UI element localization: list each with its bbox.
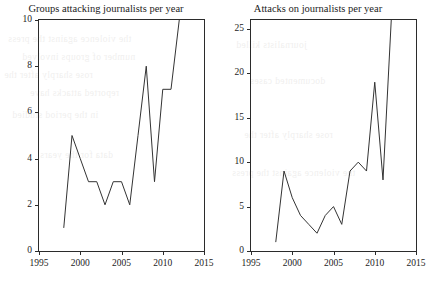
x-axis-tick — [292, 251, 293, 255]
x-axis-tick-label: 2000 — [71, 259, 90, 269]
y-axis-tick-label: 15 — [235, 113, 245, 123]
x-axis-tick-label: 2010 — [365, 259, 384, 269]
plot-area: 024681019952000200520102015 — [38, 19, 205, 252]
y-axis-tick — [247, 73, 251, 74]
x-axis-tick — [375, 251, 376, 255]
y-axis-tick — [35, 205, 39, 206]
y-axis-tick-label: 8 — [27, 61, 32, 71]
x-axis-tick — [122, 251, 123, 255]
x-axis-tick-label: 2010 — [153, 259, 172, 269]
x-axis-tick — [416, 251, 417, 255]
x-axis-tick-label: 1995 — [30, 259, 49, 269]
x-axis-tick-label: 2005 — [324, 259, 343, 269]
data-line — [276, 20, 392, 242]
line-series — [251, 20, 416, 251]
x-axis-tick — [163, 251, 164, 255]
y-axis-tick — [247, 162, 251, 163]
y-axis-tick — [247, 29, 251, 30]
x-axis-tick — [39, 251, 40, 255]
y-axis-tick — [35, 112, 39, 113]
y-axis-tick-label: 20 — [235, 69, 245, 79]
y-axis-tick — [247, 118, 251, 119]
x-axis-tick — [251, 251, 252, 255]
x-axis-tick — [204, 251, 205, 255]
line-series — [39, 20, 204, 251]
y-axis-tick-label: 2 — [27, 200, 32, 210]
chart-panel-attacks: Attacks on journalists per year 05101520… — [212, 0, 424, 290]
y-axis-tick-label: 0 — [27, 246, 32, 256]
y-axis-tick — [35, 159, 39, 160]
y-axis-tick-label: 10 — [235, 157, 245, 167]
x-axis-tick-label: 2015 — [195, 259, 214, 269]
y-axis-tick-label: 0 — [239, 246, 244, 256]
data-line — [64, 20, 180, 228]
x-axis-tick-label: 2005 — [112, 259, 131, 269]
plot-area: 051015202519952000200520102015 — [250, 19, 417, 252]
y-axis-tick-label: 25 — [235, 24, 245, 34]
y-axis-tick — [35, 66, 39, 67]
x-axis-tick-label: 2015 — [407, 259, 426, 269]
x-axis-tick-label: 1995 — [242, 259, 261, 269]
x-axis-tick-label: 2000 — [283, 259, 302, 269]
y-axis-tick-label: 5 — [239, 202, 244, 212]
x-axis-tick — [80, 251, 81, 255]
y-axis-tick-label: 10 — [23, 15, 33, 25]
x-axis-tick — [334, 251, 335, 255]
y-axis-tick — [35, 20, 39, 21]
chart-panel-groups: Groups attacking journalists per year 02… — [0, 0, 212, 290]
y-axis-tick-label: 4 — [27, 154, 32, 164]
y-axis-tick — [247, 207, 251, 208]
y-axis-tick-label: 6 — [27, 108, 32, 118]
chart-title: Attacks on journalists per year — [212, 2, 424, 16]
